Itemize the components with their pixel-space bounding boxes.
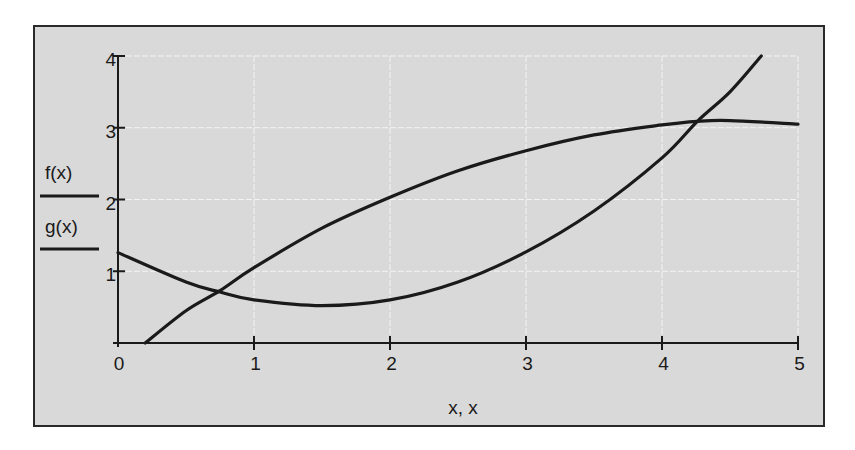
y-tick-label: 2 (105, 193, 116, 214)
x-tick-label: 3 (522, 353, 533, 374)
x-tick-label: 2 (386, 353, 397, 374)
y-tick-label: 3 (105, 121, 116, 142)
series-line-g (118, 56, 761, 306)
chart-plot: 0123451234 f(x) g(x) x, x (0, 0, 855, 450)
legend: f(x) g(x) (40, 162, 99, 249)
axes (113, 56, 798, 350)
grid-lines (118, 56, 798, 343)
series-line-f (145, 120, 798, 343)
y-tick-label: 4 (105, 49, 116, 70)
tick-labels: 0123451234 (105, 49, 805, 374)
legend-label-f: f(x) (45, 162, 72, 183)
x-tick-label: 1 (250, 353, 261, 374)
x-axis-title: x, x (448, 397, 478, 418)
x-tick-label: 0 (114, 353, 125, 374)
y-tick-label: 1 (105, 264, 116, 285)
x-tick-label: 5 (794, 353, 805, 374)
x-tick-label: 4 (658, 353, 669, 374)
legend-label-g: g(x) (45, 216, 78, 237)
